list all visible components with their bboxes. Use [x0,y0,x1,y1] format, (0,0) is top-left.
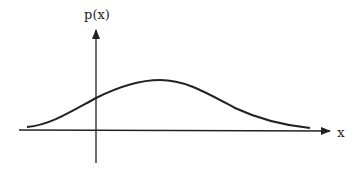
probability-density-diagram: p(x) x [0,0,360,172]
x-axis [19,130,330,131]
density-curve [27,80,310,128]
y-axis-label: p(x) [84,7,110,22]
x-axis-label: x [337,125,345,140]
